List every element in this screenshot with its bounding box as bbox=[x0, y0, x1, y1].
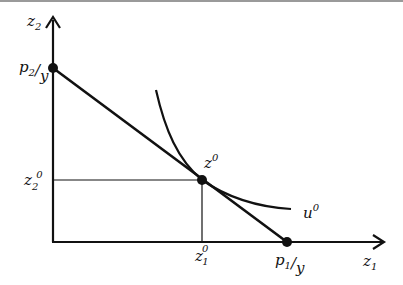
optimum-label: z0 bbox=[203, 152, 219, 172]
z2-zero-label: z20 bbox=[23, 169, 43, 192]
x-intercept-point bbox=[282, 237, 292, 247]
y-intercept-point bbox=[48, 63, 58, 73]
indifference-curve-label: u0 bbox=[303, 202, 320, 222]
diagram-frame: z2 z1 p2/y p1/y z0 z20 z01 u0 bbox=[0, 0, 403, 285]
z1-zero-label: z01 bbox=[194, 243, 209, 267]
x-axis bbox=[52, 235, 384, 249]
y-axis-label: z2 bbox=[26, 12, 41, 32]
y-intercept-label: p2/y bbox=[19, 58, 49, 85]
budget-line bbox=[53, 68, 287, 242]
x-axis-label: z1 bbox=[362, 252, 377, 272]
x-intercept-label: p1/y bbox=[275, 251, 305, 277]
y-axis bbox=[46, 17, 60, 242]
optimum-point bbox=[197, 175, 207, 185]
diagram-canvas: z2 z1 p2/y p1/y z0 z20 z01 u0 bbox=[0, 0, 403, 285]
indifference-curve bbox=[156, 90, 291, 209]
